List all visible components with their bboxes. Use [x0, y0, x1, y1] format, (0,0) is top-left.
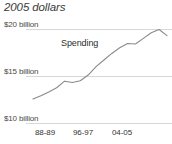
- chart-figure: 2005 dollars $20 billion $15 billion $10…: [0, 0, 172, 144]
- spending-line-series: [0, 0, 172, 144]
- spending-annotation-label: Spending: [61, 38, 98, 48]
- plot-area: $20 billion $15 billion $10 billion 88-8…: [0, 0, 172, 144]
- spending-line-path: [33, 29, 167, 99]
